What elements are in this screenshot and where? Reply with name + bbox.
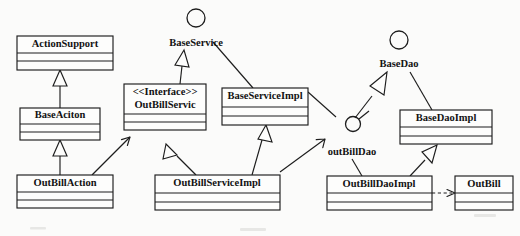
interface-out-bill-dao: outBillDao [328, 117, 376, 158]
edge-out-bill-action-extends-base-aciton [53, 140, 67, 175]
class-node-out-bill-service-impl[interactable]: OutBillServiceImpl [155, 175, 280, 210]
edge-base-service-impl-right-link [308, 92, 336, 117]
out-bill-service-impl-name: OutBillServiceImpl [173, 177, 261, 188]
class-node-base-aciton[interactable]: BaseAciton [20, 108, 100, 140]
edge-out-bill-dao-impl-depends-out-bill [432, 190, 455, 197]
class-node-out-bill-dao-impl[interactable]: OutBillDaoImpl [327, 176, 432, 210]
base-dao-label: BaseDao [379, 58, 418, 69]
class-node-base-dao-impl[interactable]: BaseDaoImpl [400, 110, 492, 144]
scan-artifacts [30, 214, 496, 231]
edge-out-bill-servic-realizes-base-service [175, 50, 189, 84]
edge-out-bill-action-uses-out-bill-servic [92, 137, 130, 175]
action-support-name: ActionSupport [32, 38, 99, 49]
out-bill-dao-impl-name: OutBillDaoImpl [343, 178, 416, 189]
edge-base-aciton-extends-action-support [53, 70, 67, 108]
class-node-out-bill-action[interactable]: OutBillAction [17, 175, 113, 208]
base-dao-circle-icon [390, 31, 408, 49]
class-node-base-service-impl[interactable]: BaseServiceImpl [222, 88, 308, 125]
interface-base-dao: BaseDao [379, 31, 418, 69]
edge-out-bill-service-impl-uses-out-bill-dao [280, 139, 325, 172]
base-service-circle-icon [187, 9, 205, 27]
out-bill-dao-circle-icon [346, 117, 361, 132]
out-bill-servic-stereotype: <<Interface>> [133, 86, 198, 97]
edge-base-dao-impl-realizes-base-dao [410, 72, 432, 110]
class-node-out-bill-servic[interactable]: <<Interface>> OutBillServic [124, 84, 206, 130]
base-dao-impl-name: BaseDaoImpl [416, 112, 477, 123]
out-bill-name: OutBill [467, 178, 500, 189]
class-node-action-support[interactable]: ActionSupport [17, 36, 113, 70]
diagram-canvas: OutBillServic (open arrow association) -… [0, 0, 520, 236]
out-bill-dao-label: outBillDao [328, 146, 376, 157]
uml-class-diagram: OutBillServic (open arrow association) -… [0, 0, 520, 236]
base-aciton-name: BaseAciton [35, 109, 86, 120]
base-service-label: BaseService [169, 37, 223, 48]
interface-base-service: BaseService [169, 9, 223, 48]
edge-out-bill-dao-stem [352, 159, 362, 176]
edge-out-bill-dao-lollipop-stem [359, 111, 369, 119]
base-service-impl-name: BaseServiceImpl [227, 90, 302, 101]
out-bill-servic-name: OutBillServic [134, 99, 196, 110]
edge-base-service-impl-realizes-base-service [213, 42, 253, 88]
edge-base-dao-left-branch [355, 72, 387, 118]
out-bill-action-name: OutBillAction [33, 177, 96, 188]
class-node-out-bill[interactable]: OutBill [455, 176, 513, 210]
edge-out-bill-service-impl-extends-base-service-impl [252, 125, 272, 175]
edge-out-bill-dao-impl-extends-base-dao-impl [410, 145, 437, 176]
edge-out-bill-service-impl-implements-out-bill-servic [163, 144, 196, 175]
